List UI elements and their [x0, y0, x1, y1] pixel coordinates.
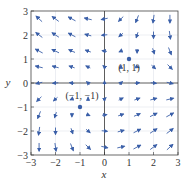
- svg-text:−2: −2: [17, 126, 28, 137]
- tick-labels: −3−2−10123−3−2−10123: [17, 6, 180, 168]
- svg-text:−1: −1: [17, 102, 28, 113]
- direction-field-plot: (1, 1)(−1, −1) −3−2−10123−3−2−10123 x y: [0, 0, 187, 186]
- svg-text:(1, 1): (1, 1): [118, 62, 140, 74]
- y-axis-label: y: [5, 76, 11, 88]
- svg-text:−3: −3: [17, 150, 28, 161]
- arrow-field: [35, 15, 173, 151]
- svg-text:0: 0: [23, 78, 28, 89]
- x-axis-label: x: [101, 168, 107, 180]
- svg-text:−2: −2: [50, 157, 61, 168]
- svg-text:1: 1: [23, 54, 28, 65]
- svg-text:3: 3: [176, 157, 181, 168]
- svg-text:1: 1: [127, 157, 132, 168]
- svg-text:2: 2: [23, 30, 28, 41]
- svg-text:0: 0: [102, 157, 107, 168]
- svg-text:−1: −1: [75, 157, 86, 168]
- svg-text:(−1, −1): (−1, −1): [66, 90, 99, 102]
- svg-text:2: 2: [151, 157, 156, 168]
- svg-text:3: 3: [23, 6, 28, 17]
